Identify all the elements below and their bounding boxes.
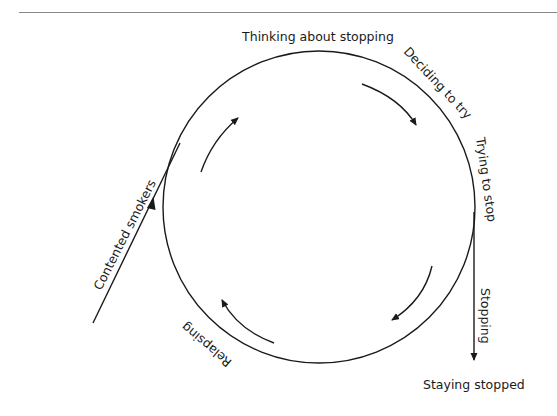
contented-smokers-entry-line (93, 143, 180, 323)
cycle-diagram: Thinking about stopping Deciding to try … (0, 0, 557, 416)
inner-arrow-top-right-icon (362, 84, 416, 125)
label-thinking-about-stopping: Thinking about stopping (241, 29, 394, 44)
cycle-circle (163, 51, 475, 363)
inner-arrow-bottom-left-icon (222, 300, 274, 343)
label-contented-smokers: Contented smokers (90, 177, 159, 292)
label-staying-stopped: Staying stopped (423, 377, 525, 392)
inner-arrow-bottom-right-icon (392, 266, 432, 320)
label-relapsing: Relapsing (178, 320, 234, 371)
label-trying-to-stop: Trying to stop (473, 135, 500, 222)
label-stopping: Stopping (478, 288, 493, 344)
inner-arrow-top-left-icon (201, 118, 238, 172)
label-deciding-to-try: Deciding to try (401, 44, 476, 123)
